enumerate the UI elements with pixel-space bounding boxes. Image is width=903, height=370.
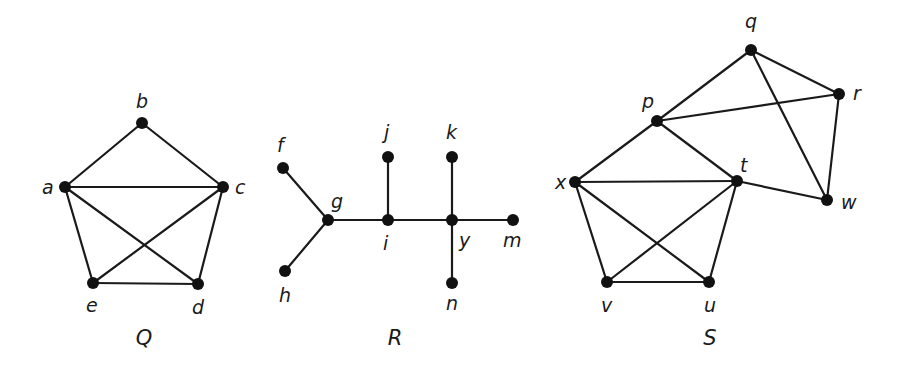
edge-R-f-g (283, 168, 328, 220)
vertex-label-R-n: n (446, 292, 458, 314)
vertex-S-q (745, 44, 757, 56)
vertex-S-w (821, 194, 833, 206)
edge-S-q-w (751, 50, 827, 200)
edge-S-x-v (575, 182, 607, 282)
edge-S-q-r (751, 50, 839, 94)
edge-S-r-w (827, 94, 839, 200)
vertex-label-R-i: i (383, 232, 389, 254)
graph-name-R: R (388, 326, 403, 350)
vertex-R-g (322, 214, 334, 226)
vertex-R-f (277, 162, 289, 174)
edge-Q-a-e (65, 187, 93, 283)
vertex-S-v (601, 276, 613, 288)
vertex-label-R-g: g (331, 190, 343, 212)
edge-S-p-x (575, 121, 657, 182)
vertex-label-S-v: v (601, 294, 613, 316)
edge-S-p-q (657, 50, 751, 121)
vertex-R-h (279, 265, 291, 277)
edge-S-p-r (657, 94, 839, 121)
vertex-label-S-x: x (554, 171, 567, 193)
vertex-R-n (446, 277, 458, 289)
edge-Q-a-d (65, 187, 198, 284)
vertex-Q-d (192, 278, 204, 290)
edge-S-t-w (737, 181, 827, 200)
edge-S-t-u (709, 181, 737, 282)
graph-figure: abcdeQfghijkymnRpqrtwxvuS (0, 0, 903, 370)
vertex-label-R-y: y (458, 229, 471, 251)
edge-S-x-u (575, 182, 709, 282)
edge-Q-b-c (142, 123, 223, 187)
vertex-S-r (833, 88, 845, 100)
vertex-label-S-r: r (853, 82, 862, 104)
graph-name-Q: Q (136, 326, 153, 350)
edge-Q-a-b (65, 123, 142, 187)
vertex-S-t (731, 175, 743, 187)
vertex-label-R-h: h (279, 284, 291, 306)
vertex-label-S-w: w (841, 191, 857, 213)
edge-S-p-t (657, 121, 737, 181)
vertex-label-Q-b: b (136, 90, 148, 112)
vertex-Q-a (59, 181, 71, 193)
vertex-Q-c (217, 181, 229, 193)
edges-layer (65, 50, 839, 284)
vertex-S-p (651, 115, 663, 127)
vertex-label-R-m: m (503, 229, 522, 251)
vertex-label-S-q: q (745, 10, 757, 32)
vertex-R-m (507, 214, 519, 226)
vertex-label-S-u: u (704, 294, 716, 316)
edge-S-t-v (607, 181, 737, 282)
vertex-label-Q-e: e (86, 294, 98, 316)
vertex-R-i (382, 214, 394, 226)
vertex-label-S-t: t (740, 154, 749, 176)
edge-Q-e-d (93, 283, 198, 284)
edge-S-x-t (575, 181, 737, 182)
vertex-S-x (569, 176, 581, 188)
vertex-label-R-k: k (446, 121, 458, 143)
vertex-label-Q-c: c (235, 176, 246, 198)
vertex-label-R-f: f (277, 134, 287, 156)
edge-R-h-g (285, 220, 328, 271)
vertex-Q-e (87, 277, 99, 289)
vertex-label-Q-d: d (192, 296, 205, 318)
vertex-Q-b (136, 117, 148, 129)
vertex-label-R-j: j (381, 121, 390, 143)
graph-name-S: S (703, 326, 716, 350)
vertex-R-k (446, 151, 458, 163)
vertex-R-j (382, 151, 394, 163)
vertex-label-S-p: p (641, 90, 654, 112)
vertex-S-u (703, 276, 715, 288)
vertex-label-Q-a: a (42, 176, 54, 198)
edge-Q-c-e (93, 187, 223, 283)
vertex-R-y (446, 214, 458, 226)
